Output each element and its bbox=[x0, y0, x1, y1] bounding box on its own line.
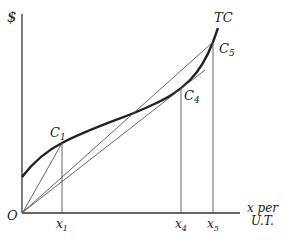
point-label-c1: C1 bbox=[50, 125, 66, 142]
total-cost-diagram: $ O TC C1 C4 C5 x1 x4 x5 x per U.T. bbox=[0, 0, 287, 242]
point-label-c5: C5 bbox=[219, 41, 235, 58]
origin-label: O bbox=[7, 208, 18, 223]
point-label-c4: C4 bbox=[184, 88, 200, 105]
x-axis-label-line1: x per bbox=[247, 201, 279, 215]
tc-label: TC bbox=[214, 10, 233, 25]
ray-tangent-c4 bbox=[23, 70, 205, 212]
x-axis-label-line2: U.T. bbox=[251, 214, 274, 228]
x-tick-label-x4: x4 bbox=[175, 217, 187, 233]
ray-to-c1 bbox=[23, 143, 62, 212]
x-tick-label-x5: x5 bbox=[207, 217, 219, 233]
x-tick-label-x1: x1 bbox=[56, 217, 68, 233]
y-axis-label: $ bbox=[7, 8, 17, 26]
